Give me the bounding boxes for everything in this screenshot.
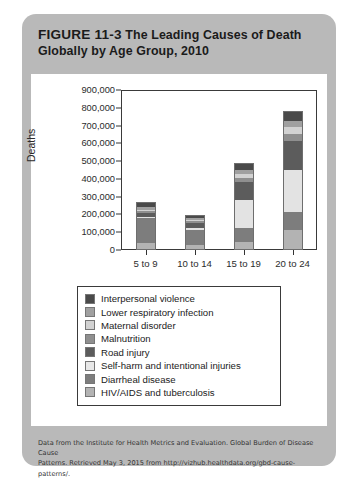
y-tick-label: 100,000 bbox=[81, 227, 115, 237]
figure-number: FIGURE 11-3 bbox=[38, 27, 122, 42]
y-tick-label: 700,000 bbox=[81, 121, 115, 131]
legend-item: Self-harm and intentional injuries bbox=[85, 359, 273, 372]
x-axis-ticks: 5 to 910 to 1415 to 1920 to 24 bbox=[121, 250, 317, 276]
stacked-bar bbox=[234, 163, 254, 250]
y-tick-label: 200,000 bbox=[81, 209, 115, 219]
bar-segment bbox=[284, 170, 302, 212]
y-tick-label: 600,000 bbox=[81, 138, 115, 148]
legend-label: Malnutrition bbox=[101, 333, 151, 344]
bar-segment bbox=[284, 134, 302, 141]
x-tick-mark bbox=[146, 250, 147, 255]
bar-segment bbox=[137, 218, 155, 243]
legend-item: Malnutrition bbox=[85, 332, 273, 345]
bar-segment bbox=[235, 164, 253, 171]
y-tick-label: 800,000 bbox=[81, 103, 115, 113]
legend-item: Interpersonal violence bbox=[85, 292, 273, 305]
x-tick-mark bbox=[195, 250, 196, 255]
x-tick-label: 15 to 19 bbox=[226, 258, 261, 269]
bar-segment bbox=[284, 141, 302, 170]
source-note-line-2: Patterns. Retrieved May 3, 2015 from htt… bbox=[38, 458, 324, 478]
legend-label: Maternal disorder bbox=[101, 320, 176, 331]
bar-segment bbox=[235, 200, 253, 228]
legend-swatch bbox=[85, 361, 95, 371]
chart-legend: Interpersonal violenceLower respiratory … bbox=[77, 286, 281, 406]
legend-swatch bbox=[85, 320, 95, 330]
legend-swatch bbox=[85, 347, 95, 357]
bar-segment bbox=[235, 242, 253, 249]
stacked-bar bbox=[283, 111, 303, 250]
figure-card: FIGURE 11-3 The Leading Causes of Death … bbox=[22, 14, 336, 466]
x-tick-label: 10 to 14 bbox=[177, 258, 212, 269]
legend-swatch bbox=[85, 374, 95, 384]
bar-segment bbox=[284, 230, 302, 249]
y-tick-label: 900,000 bbox=[81, 85, 115, 95]
legend-label: Road injury bbox=[101, 347, 150, 358]
stacked-bar bbox=[185, 215, 205, 250]
stacked-bar bbox=[136, 202, 156, 250]
x-tick-mark bbox=[293, 250, 294, 255]
figure-source-note: Data from the Institute for Health Metri… bbox=[38, 438, 324, 479]
x-tick-label: 20 to 24 bbox=[275, 258, 310, 269]
source-note-line-1: Data from the Institute for Health Metri… bbox=[38, 438, 324, 458]
legend-swatch bbox=[85, 334, 95, 344]
y-tick-label: 300,000 bbox=[81, 192, 115, 202]
figure-page: FIGURE 11-3 The Leading Causes of Death … bbox=[0, 0, 357, 479]
legend-label: HIV/AIDS and tuberculosis bbox=[101, 387, 215, 398]
bar-segment bbox=[235, 182, 253, 200]
legend-label: Lower respiratory infection bbox=[101, 307, 214, 318]
bar-segment bbox=[235, 228, 253, 242]
plot-area: Deaths 0100,000200,000300,000400,000500,… bbox=[31, 84, 327, 274]
legend-label: Interpersonal violence bbox=[101, 293, 195, 304]
bar-series-group bbox=[121, 90, 317, 250]
y-tick-label: 400,000 bbox=[81, 174, 115, 184]
legend-label: Self-harm and intentional injuries bbox=[101, 360, 241, 371]
legend-swatch bbox=[85, 294, 95, 304]
y-tick-label: 500,000 bbox=[81, 156, 115, 166]
legend-item: Road injury bbox=[85, 346, 273, 359]
figure-title-line-2: Globally by Age Group, 2010 bbox=[38, 44, 322, 60]
figure-title: FIGURE 11-3 The Leading Causes of Death … bbox=[38, 26, 322, 60]
legend-item: Diarrheal disease bbox=[85, 372, 273, 385]
chart-panel: Deaths 0100,000200,000300,000400,000500,… bbox=[31, 74, 327, 426]
x-tick-label: 5 to 9 bbox=[133, 258, 157, 269]
y-axis-ticks: 0100,000200,000300,000400,000500,000600,… bbox=[45, 90, 121, 250]
legend-swatch bbox=[85, 307, 95, 317]
legend-item: Maternal disorder bbox=[85, 319, 273, 332]
legend-swatch bbox=[85, 387, 95, 397]
bar-segment bbox=[186, 230, 204, 245]
legend-item: Lower respiratory infection bbox=[85, 305, 273, 318]
y-tick-label: 0 bbox=[110, 245, 115, 255]
legend-item: HIV/AIDS and tuberculosis bbox=[85, 386, 273, 399]
bar-segment bbox=[186, 245, 204, 249]
legend-label: Diarrheal disease bbox=[101, 374, 176, 385]
bar-segment bbox=[284, 112, 302, 121]
figure-title-text-1: The Leading Causes of Death bbox=[125, 28, 301, 42]
bar-segment bbox=[284, 212, 302, 230]
bar-segment bbox=[137, 243, 155, 249]
x-tick-mark bbox=[244, 250, 245, 255]
figure-title-line-1: FIGURE 11-3 The Leading Causes of Death bbox=[38, 26, 322, 44]
y-axis-label: Deaths bbox=[25, 129, 37, 162]
bar-segment bbox=[284, 127, 302, 134]
